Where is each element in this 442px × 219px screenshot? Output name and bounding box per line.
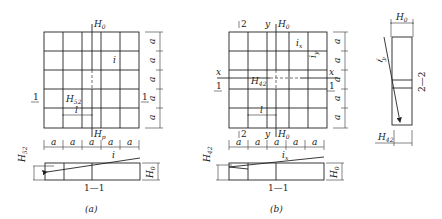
section-title-c: 2—2 <box>417 72 427 92</box>
section-mark-2-bottom: 2 <box>241 129 247 139</box>
section-mark-2-top: 2 <box>241 19 247 29</box>
plan-grid-b <box>229 32 327 128</box>
svg-text:i: i <box>112 150 115 160</box>
svg-text:a: a <box>236 137 241 147</box>
bottom-dimension-a: a a a a a <box>44 137 139 150</box>
svg-text:l: l <box>260 105 263 115</box>
label-H0-top-b: H0 <box>277 19 290 30</box>
section-mark-left-b: 1 <box>216 81 222 91</box>
section-title-a: 1—1 <box>84 183 104 193</box>
svg-text:a: a <box>108 137 113 147</box>
label-H0-c: H0 <box>395 12 408 23</box>
section-2-2: H0 iy 2—2 H42 <box>374 12 427 146</box>
svg-text:H42: H42 <box>202 146 213 163</box>
svg-text:a: a <box>332 58 342 63</box>
svg-text:H0: H0 <box>145 166 156 179</box>
slope-label-a: i <box>113 55 116 65</box>
svg-text:a: a <box>51 137 56 147</box>
section-1-1-b: ix H42 H0 1—1 <box>202 146 344 193</box>
label-H0-top-a: H0 <box>93 19 106 30</box>
svg-text:a: a <box>127 137 132 147</box>
svg-text:a: a <box>332 115 342 120</box>
svg-text:a: a <box>147 77 157 82</box>
right-dimension-b: a a a a a <box>332 32 348 128</box>
section-mark-left-a: 1 <box>33 92 39 102</box>
section-1-1-a: i H52 H0 1—1 <box>17 146 160 193</box>
svg-text:a: a <box>147 115 157 120</box>
label-H42-c: H42 <box>377 132 394 143</box>
svg-text:a: a <box>274 137 279 147</box>
svg-text:a: a <box>332 96 342 101</box>
svg-text:y: y <box>264 19 271 29</box>
svg-text:a: a <box>255 137 260 147</box>
svg-text:a: a <box>332 77 342 82</box>
svg-text:a: a <box>293 137 298 147</box>
svg-text:a: a <box>147 58 157 63</box>
figure-a: H0 Hp i H52 l 1 1 a a a a a <box>17 19 163 214</box>
svg-text:y: y <box>264 129 271 139</box>
svg-text:l: l <box>75 105 78 115</box>
slope-y-label-b: iy <box>308 51 320 58</box>
svg-text:ix: ix <box>282 150 289 161</box>
slope-label-c: iy <box>374 54 388 65</box>
plan-grid-a <box>44 32 139 128</box>
svg-text:H52: H52 <box>17 146 28 163</box>
figure-b: y H0 y H0 2 2 x x 1 1 ix iy H42 l <box>202 19 348 214</box>
svg-text:x: x <box>216 67 221 77</box>
right-dimension-a: a a a a a <box>145 32 163 128</box>
slope-x-label-b: ix <box>296 38 303 49</box>
svg-text:a: a <box>70 137 75 147</box>
svg-text:H0: H0 <box>329 166 340 179</box>
section-title-b: 1—1 <box>268 183 288 193</box>
svg-text:x: x <box>329 67 334 77</box>
drainage-slope-diagram: H0 Hp i H52 l 1 1 a a a a a <box>0 0 442 219</box>
point-label-a: H52 <box>65 94 82 105</box>
label-Hp-bottom-a: Hp <box>93 129 106 141</box>
svg-text:a: a <box>147 96 157 101</box>
svg-text:a: a <box>89 137 94 147</box>
caption-b: (b) <box>270 204 283 214</box>
svg-text:a: a <box>332 39 342 44</box>
caption-a: (a) <box>85 204 98 214</box>
svg-text:a: a <box>312 137 317 147</box>
svg-text:a: a <box>147 39 157 44</box>
